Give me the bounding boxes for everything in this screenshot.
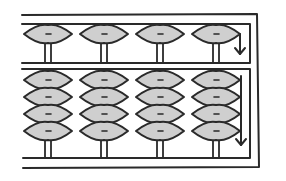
bead[interactable] [136, 88, 184, 107]
bead[interactable] [192, 105, 240, 124]
bead[interactable] [136, 105, 184, 124]
bead[interactable] [80, 105, 128, 124]
bead[interactable] [192, 88, 240, 107]
beads [24, 25, 240, 141]
bead[interactable] [136, 71, 184, 90]
lower-deck-arrow-icon [236, 76, 246, 145]
bead[interactable] [24, 88, 72, 107]
rods [45, 24, 219, 158]
bead[interactable] [80, 88, 128, 107]
bead[interactable] [80, 71, 128, 90]
bead[interactable] [24, 122, 72, 141]
bead[interactable] [192, 71, 240, 90]
bead[interactable] [192, 25, 240, 44]
bead[interactable] [192, 122, 240, 141]
bead[interactable] [80, 25, 128, 44]
bead[interactable] [24, 71, 72, 90]
bead[interactable] [24, 105, 72, 124]
bead[interactable] [80, 122, 128, 141]
bead[interactable] [24, 25, 72, 44]
abacus-svg [0, 0, 286, 181]
bead[interactable] [136, 25, 184, 44]
bead[interactable] [136, 122, 184, 141]
abacus-diagram [0, 0, 286, 181]
